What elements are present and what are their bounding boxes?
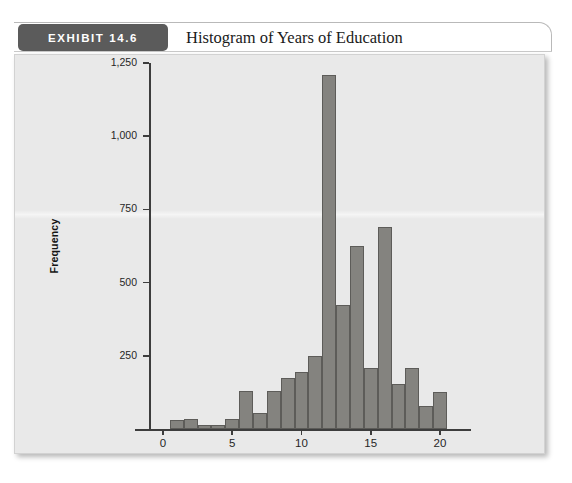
chart-panel: Frequency Highest Year of School Complet… [14,54,545,454]
histogram-bar [364,368,378,429]
x-axis-tick [439,429,441,435]
y-axis-tick-label: 500 [89,276,137,288]
y-axis-title: Frequency [48,201,60,291]
y-axis-tick-label: 1,250 [89,56,137,68]
y-axis-tick-label: 250 [89,349,137,361]
histogram-bar [378,227,392,429]
x-axis-tick-label: 20 [423,437,457,449]
histogram-bar [350,246,364,429]
histogram-bar [322,75,336,429]
histogram-bar [419,406,433,429]
y-axis-tick [143,209,149,211]
x-axis-line [135,429,471,431]
histogram-bar [253,413,267,429]
exhibit-number-badge: EXHIBIT 14.6 [18,24,168,51]
y-axis-line [149,63,151,430]
x-axis-tick [162,429,164,435]
histogram-chart: Frequency Highest Year of School Complet… [15,55,545,454]
y-axis-tick [143,282,149,284]
histogram-bar [336,305,350,429]
histogram-bar [239,391,253,429]
x-axis-tick-label: 15 [354,437,388,449]
x-axis-tick [370,429,372,435]
histogram-bar [281,378,295,429]
x-axis-tick-label: 10 [285,437,319,449]
x-axis-tick [231,429,233,435]
histogram-bar [267,391,281,429]
y-axis-tick-label: 1,000 [89,129,137,141]
y-axis-tick [143,135,149,137]
exhibit-header: EXHIBIT 14.6 Histogram of Years of Educa… [14,22,552,52]
x-axis-tick-label: 0 [146,437,180,449]
histogram-bar [225,419,239,429]
y-axis-tick [143,62,149,64]
histogram-bar [184,419,198,429]
histogram-bar [198,425,212,429]
histogram-bar [433,392,447,429]
histogram-bar [295,372,309,429]
histogram-bar [170,420,184,429]
histogram-bar [211,425,225,429]
histogram-bar [308,356,322,429]
y-axis-tick-label: 750 [89,202,137,214]
exhibit-title: Histogram of Years of Education [186,28,403,48]
x-axis-tick-label: 5 [215,437,249,449]
y-axis-tick [143,355,149,357]
histogram-bar [405,368,419,429]
exhibit-card: EXHIBIT 14.6 Histogram of Years of Educa… [14,22,552,462]
histogram-bar [392,384,406,429]
x-axis-tick [301,429,303,435]
